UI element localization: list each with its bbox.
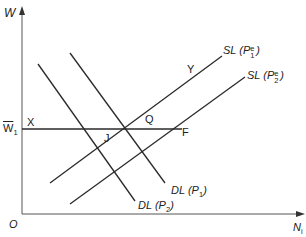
point-f-label: F: [182, 127, 189, 138]
point-y-label: Y: [187, 64, 194, 75]
sl-p1e-price: P: [243, 44, 250, 56]
origin-label: O: [9, 219, 18, 230]
dl-p2-sub: 2: [166, 205, 170, 214]
dl-p1-name: DL: [171, 184, 185, 196]
y-axis-arrow-icon: [19, 6, 25, 15]
dl-p1-label: DL (P1): [171, 185, 207, 199]
sl-p1e-curve: [50, 56, 222, 183]
labor-market-diagram: W O Ni W1 X J Q F Y SL (Pe1) SL (Pe2) DL…: [0, 0, 306, 237]
dl-p1-sub: 1: [199, 190, 203, 199]
x-axis-label-main: N: [293, 221, 301, 233]
dl-p2-label: DL (P2): [138, 200, 174, 214]
dl-p1-price: P: [192, 184, 199, 196]
wage-level-label: W1: [3, 123, 18, 137]
point-x-label: X: [27, 117, 34, 128]
wage-level-label-sub: 1: [13, 128, 17, 137]
sl-p2e-curve: [70, 77, 245, 204]
wage-level-label-main: W: [3, 122, 13, 134]
dl-p2-price: P: [159, 199, 166, 211]
sl-p2e-sub: 2: [274, 77, 278, 85]
x-axis-arrow-icon: [296, 211, 305, 217]
dl-p2-name: DL: [138, 199, 152, 211]
x-axis-label: Ni: [293, 222, 303, 236]
sl-p1e-name: SL: [223, 44, 236, 56]
point-j-label: J: [104, 133, 110, 144]
point-q-label: Q: [145, 114, 154, 125]
sl-p2e-name: SL: [247, 69, 260, 81]
sl-p2e-price: P: [267, 69, 274, 81]
sl-p1e-sub: 1: [250, 52, 254, 60]
x-axis-label-sub: i: [301, 227, 303, 236]
sl-p2e-label: SL (Pe2): [247, 70, 284, 81]
y-axis-label: W: [4, 7, 15, 19]
sl-p1e-label: SL (Pe1): [223, 45, 260, 56]
